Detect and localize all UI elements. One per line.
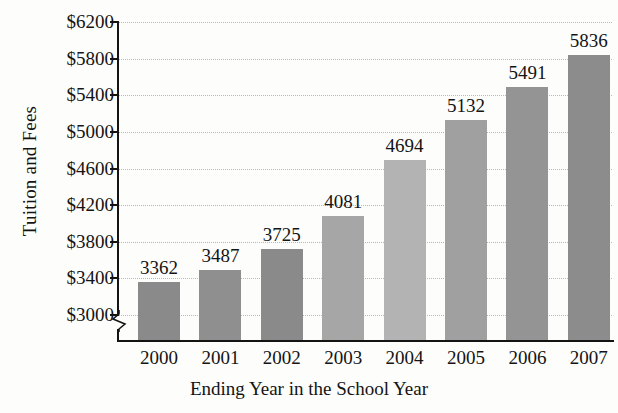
bar bbox=[199, 270, 241, 341]
bar bbox=[322, 216, 364, 341]
axis-break-icon bbox=[110, 310, 128, 332]
bar-value-label: 4081 bbox=[313, 192, 373, 211]
x-axis-tick-label: 2006 bbox=[497, 348, 557, 367]
x-axis-tick-label: 2000 bbox=[129, 348, 189, 367]
x-axis-tick-label: 2001 bbox=[190, 348, 250, 367]
bar-value-label: 3725 bbox=[252, 225, 312, 244]
x-axis-tick-label: 2002 bbox=[252, 348, 312, 367]
bar-value-label: 4694 bbox=[375, 136, 435, 155]
bar-value-label: 5132 bbox=[436, 96, 496, 115]
bar-chart: Tuition and Fees $3000$3400$3800$4200$46… bbox=[0, 0, 618, 413]
x-axis-tick-label: 2003 bbox=[313, 348, 373, 367]
x-axis-tick-label: 2005 bbox=[436, 348, 496, 367]
bar bbox=[384, 160, 426, 341]
bar bbox=[261, 249, 303, 341]
x-axis-title: Ending Year in the School Year bbox=[0, 378, 618, 400]
gridline bbox=[119, 59, 612, 60]
x-axis-tick-label: 2004 bbox=[375, 348, 435, 367]
bar bbox=[445, 120, 487, 341]
gridline bbox=[119, 22, 612, 23]
bar bbox=[568, 55, 610, 341]
bar-value-label: 5836 bbox=[559, 31, 618, 50]
y-axis-line bbox=[117, 22, 119, 315]
bar bbox=[138, 282, 180, 341]
plot-area: 3362200034872001372520024081200346942004… bbox=[0, 0, 618, 413]
bar bbox=[506, 87, 548, 341]
bar-value-label: 5491 bbox=[497, 63, 557, 82]
bar-value-label: 3487 bbox=[190, 246, 250, 265]
x-axis-line bbox=[117, 340, 614, 342]
x-axis-tick-label: 2007 bbox=[559, 348, 618, 367]
bar-value-label: 3362 bbox=[129, 258, 189, 277]
